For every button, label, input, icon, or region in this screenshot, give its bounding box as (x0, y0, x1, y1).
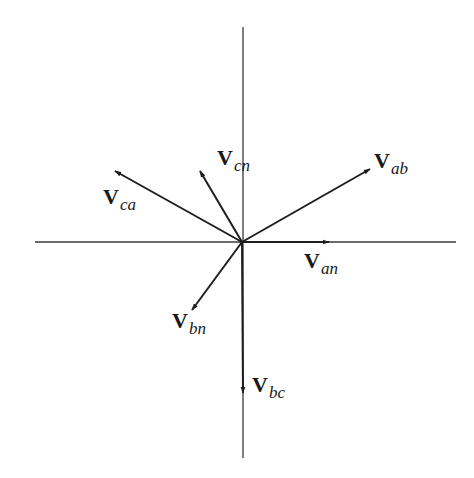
vector-vab-arrow (242, 169, 370, 242)
label-van: Van (304, 250, 338, 272)
label-symbol: V (172, 308, 188, 333)
label-symbol: V (252, 372, 268, 397)
label-subscript: ab (391, 159, 408, 178)
label-vbc: Vbc (252, 374, 285, 396)
label-vbn: Vbn (172, 310, 206, 332)
phasor-diagram (0, 0, 474, 478)
label-symbol: V (217, 145, 233, 170)
label-subscript: cn (234, 156, 250, 175)
vector-vbc-arrow (242, 242, 243, 393)
label-symbol: V (304, 248, 320, 273)
label-vcn: Vcn (217, 147, 250, 169)
label-subscript: an (321, 259, 338, 278)
vector-vbn-arrow (192, 242, 242, 310)
label-subscript: ca (120, 195, 136, 214)
label-vca: Vca (103, 186, 136, 208)
label-subscript: bn (189, 319, 206, 338)
label-symbol: V (374, 148, 390, 173)
label-vab: Vab (374, 150, 408, 172)
label-symbol: V (103, 184, 119, 209)
label-subscript: bc (269, 383, 285, 402)
